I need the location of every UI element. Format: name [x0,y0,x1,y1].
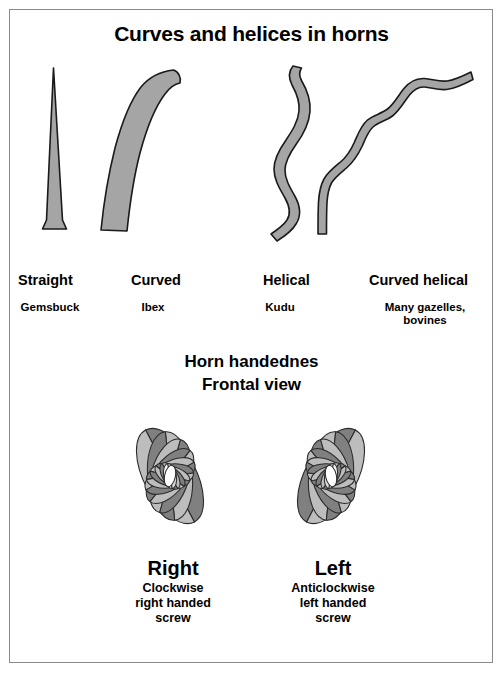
straight-cone-horn [43,68,67,229]
horn-species-ibex: Ibex [113,301,193,314]
figure-title: Curves and helices in horns [0,22,503,46]
horn-label-curved-helical: Curved helical [369,272,468,288]
left-handed-spiral [271,411,391,540]
horn-species-line-2: bovines [355,314,495,327]
spiral-diagrams-group [0,404,503,552]
handedness-desc-left-line-1: Anticlockwise [238,581,428,596]
horn-species-kudu: Kudu [240,301,320,314]
handedness-heading-line-1: Horn handednes [0,350,503,373]
handedness-desc-left: Anticlockwise left handed screw [238,581,428,626]
curved-helical-horn [318,72,473,234]
handedness-desc-left-line-2: left handed [238,596,428,611]
handedness-desc-left-line-3: screw [238,611,428,626]
helical-horn [271,66,310,241]
handedness-heading: Horn handednes Frontal view [0,350,503,396]
figure-root: Curves and helices in horns Straight Cur… [0,0,503,673]
horn-label-helical: Helical [263,272,310,288]
horn-species-gazelles-bovines: Many gazelles, bovines [355,301,495,327]
horn-label-curved: Curved [131,272,181,288]
horn-label-straight: Straight [18,272,73,288]
right-handed-spiral [110,411,230,540]
horn-labels-row: Straight Curved Helical Curved helical G… [0,272,503,332]
handedness-title-left: Left [238,556,428,580]
horn-species-line-1: Many gazelles, [355,301,495,314]
curved-horn [101,70,180,231]
handedness-heading-line-2: Frontal view [0,373,503,396]
horn-shapes-group [0,60,503,270]
horn-species-gemsbuck: Gemsbuck [0,301,100,314]
handedness-item-left: Left Anticlockwise left handed screw [238,556,428,626]
